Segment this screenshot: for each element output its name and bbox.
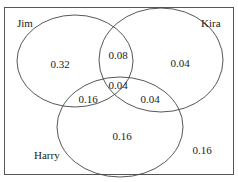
kira-harry-value: 0.04 — [140, 94, 159, 105]
jim-label: Jim — [17, 18, 33, 29]
jim-only-value: 0.32 — [50, 59, 69, 70]
none-value: 0.16 — [192, 145, 211, 156]
harry-label: Harry — [34, 150, 60, 161]
jim-harry-value: 0.16 — [78, 94, 97, 105]
kira-label: Kira — [201, 18, 221, 29]
jim-kira-value: 0.08 — [108, 50, 127, 61]
all-three-value: 0.04 — [108, 80, 127, 91]
jim-circle — [17, 15, 133, 107]
harry-circle — [57, 77, 183, 177]
kira-only-value: 0.04 — [170, 58, 189, 69]
harry-only-value: 0.16 — [112, 131, 131, 142]
